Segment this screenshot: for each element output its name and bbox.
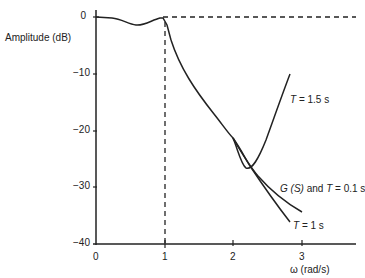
x-axis-label: ω (rad/s) — [290, 264, 329, 275]
annotation-t-1-5s: T = 1.5 s — [290, 94, 329, 105]
x-tick-1: 1 — [162, 251, 168, 262]
y-axis-label: Amplitude (dB) — [5, 32, 71, 43]
series-t-1-5s — [233, 74, 290, 168]
y-tick-0: 0 — [56, 10, 86, 21]
x-tick-0: 0 — [93, 251, 99, 262]
transition-curve — [171, 40, 233, 138]
series-gs-t-0-1s — [233, 138, 302, 212]
x-tick-2: 2 — [230, 251, 236, 262]
y-tick-neg20: −20 — [60, 124, 90, 135]
x-tick-3: 3 — [299, 251, 305, 262]
annotation-t-1s: T = 1 s — [293, 220, 324, 231]
passband-curve — [96, 17, 171, 40]
y-tick-neg40: −40 — [60, 237, 90, 248]
annotation-gs-t-0-1s: G (S) and T = 0.1 s — [280, 183, 365, 194]
y-tick-neg30: −30 — [60, 180, 90, 191]
y-tick-neg10: −10 — [60, 67, 90, 78]
